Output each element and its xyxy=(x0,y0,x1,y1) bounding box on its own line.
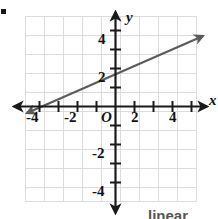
x-tick-label-minus4: -4 xyxy=(26,110,39,125)
x-tick-label-2: 2 xyxy=(131,110,139,125)
y-tick-label-2: 2 xyxy=(98,70,106,85)
caption-partial: linear xyxy=(148,210,218,219)
graph-figure: y x O -4 -2 2 4 4 2 -2 -4 linear xyxy=(0,0,218,219)
origin-label: O xyxy=(101,110,112,125)
y-axis-label: y xyxy=(126,10,133,25)
x-tick-label-minus2: -2 xyxy=(64,110,77,125)
y-tick-label-minus4: -4 xyxy=(92,184,105,199)
x-axis-label: x xyxy=(209,93,217,108)
y-tick-label-4: 4 xyxy=(98,32,106,47)
y-tick-label-minus2: -2 xyxy=(92,146,105,161)
caption-text: linear xyxy=(148,210,218,219)
x-tick-label-4: 4 xyxy=(169,110,177,125)
